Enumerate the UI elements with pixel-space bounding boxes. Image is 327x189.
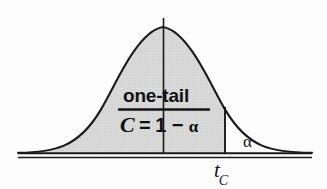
confidence-formula-label: C=1−α bbox=[120, 114, 199, 136]
formula-alpha: α bbox=[189, 117, 199, 136]
formula-equals: = bbox=[139, 114, 151, 136]
formula-symbol-c: C bbox=[120, 112, 135, 137]
critical-value-subscript: C bbox=[219, 173, 228, 188]
alpha-rejection-region-label: α bbox=[243, 133, 252, 150]
formula-one: 1 bbox=[155, 114, 167, 136]
formula-minus: − bbox=[172, 114, 184, 136]
one-tail-distribution-figure: one-tail C=1−α α tC bbox=[0, 0, 327, 189]
one-tail-numerator-label: one-tail bbox=[123, 86, 189, 105]
critical-value-label: tC bbox=[214, 160, 229, 185]
